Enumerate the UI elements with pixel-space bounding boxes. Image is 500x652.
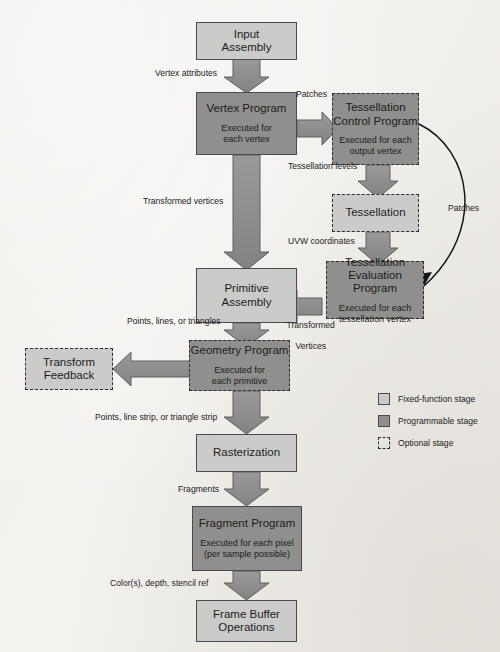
node-title-line2: Control Program [333, 115, 417, 128]
edge-label-points-line-strip-triangle-strip: Points, line strip, or triangle strip [95, 412, 217, 423]
edge-label-patches-horizontal: Patches [296, 89, 327, 100]
node-title: Tessellation [345, 206, 405, 219]
legend-swatch-programmable-icon [378, 415, 390, 427]
edge-label-line2: Vertices [295, 341, 326, 351]
arrow-geometry-to-transform-feedback [113, 352, 196, 386]
node-transform-feedback[interactable]: Transform Feedback [25, 348, 113, 390]
node-tessellation-control-program[interactable]: Tessellation Control Program Executed fo… [332, 93, 419, 165]
pipeline-diagram-page: Input Assembly Vertex Program Executed f… [0, 0, 500, 652]
node-title-line2: Feedback [44, 369, 95, 382]
edge-label-color-depth-stencil: Color(s), depth, stencil ref [110, 578, 208, 589]
node-title: Transform [43, 356, 95, 369]
legend-item-fixed-function: Fixed-function stage [378, 389, 496, 409]
node-title-line2: Assembly [222, 296, 272, 309]
legend-label: Programmable stage [398, 416, 478, 426]
node-subtitle-line2: tessellation vertex [339, 314, 411, 325]
legend-item-optional: Optional stage [378, 433, 496, 453]
node-subtitle-line2: each vertex [223, 134, 270, 145]
edge-label-tessellation-levels: Tessellation levels [288, 161, 357, 172]
node-tessellation[interactable]: Tessellation [332, 194, 419, 232]
legend-item-programmable: Programmable stage [378, 411, 496, 431]
node-title: Fragment Program [199, 517, 296, 530]
node-subtitle: Executed for each [339, 303, 412, 314]
legend-label: Fixed-function stage [398, 394, 475, 404]
legend: Fixed-function stage Programmable stage … [378, 389, 496, 455]
edge-label-points-lines-triangles: Points, lines, or triangles [127, 316, 221, 327]
edge-label-fragments: Fragments [178, 484, 219, 495]
node-input-assembly[interactable]: Input Assembly [196, 22, 297, 60]
node-title-line2: Evaluation Program [327, 269, 423, 296]
node-subtitle: Executed for [221, 123, 272, 134]
node-rasterization[interactable]: Rasterization [196, 434, 297, 472]
node-subtitle: Executed for each pixel [200, 538, 294, 549]
arrow-fragment-to-framebuffer [224, 571, 269, 600]
node-vertex-program[interactable]: Vertex Program Executed for each vertex [196, 92, 297, 155]
arrow-rasterization-to-fragment [224, 472, 269, 506]
node-title: Vertex Program [207, 102, 287, 115]
node-frame-buffer-operations[interactable]: Frame Buffer Operations [196, 600, 297, 642]
legend-label: Optional stage [398, 438, 453, 448]
node-title-line2: Operations [218, 621, 274, 634]
node-geometry-program[interactable]: Geometry Program Executed for each primi… [189, 340, 290, 391]
node-subtitle: Executed for [214, 365, 265, 376]
node-title: Frame Buffer [213, 608, 280, 621]
legend-swatch-fixed-function-icon [378, 393, 390, 405]
node-title: Rasterization [213, 446, 280, 459]
node-title: Input [234, 28, 260, 41]
node-subtitle: Executed for each [339, 135, 412, 146]
node-subtitle-line2: output vertex [349, 146, 401, 157]
edge-label-line1: Transformed [287, 320, 335, 330]
node-title: Tessellation [345, 256, 405, 269]
edge-label-vertex-attributes: Vertex attributes [155, 68, 217, 79]
node-subtitle-line2: each primitive [212, 376, 268, 387]
node-title: Tessellation [345, 101, 405, 114]
node-fragment-program[interactable]: Fragment Program Executed for each pixel… [192, 506, 302, 571]
edge-label-patches-curved: Patches [448, 203, 479, 214]
arrow-vertex-to-primitive [224, 155, 269, 270]
arrow-input-to-vertex [224, 59, 269, 93]
edge-label-transformed-vertices-2: Transformed Vertices [276, 309, 336, 363]
node-subtitle-line2: (per sample possible) [204, 549, 290, 560]
edge-label-uvw-coordinates: UVW coordinates [288, 236, 355, 247]
node-title-line2: Assembly [222, 41, 272, 54]
legend-swatch-optional-icon [378, 437, 390, 449]
node-title: Primitive [224, 282, 268, 295]
node-tessellation-evaluation-program[interactable]: Tessellation Evaluation Program Executed… [326, 261, 424, 319]
edge-label-transformed-vertices: Transformed vertices [143, 196, 223, 207]
arrow-geometry-to-rasterization [224, 391, 269, 434]
node-title: Geometry Program [191, 344, 289, 357]
